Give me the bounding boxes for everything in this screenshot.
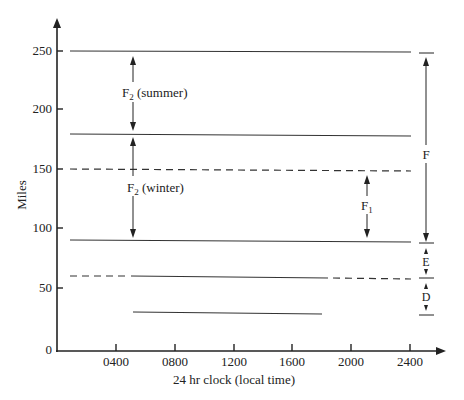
right-bracket (419, 53, 434, 315)
line-250mi (70, 51, 411, 52)
line-180mi (70, 134, 411, 136)
f-layer-label: F (422, 147, 429, 162)
e-layer-label: E (422, 255, 429, 269)
x-tick-1600: 1600 (279, 354, 305, 369)
x-tick-0800: 0800 (162, 354, 188, 369)
ionosphere-layers-diagram: 250 200 150 100 50 0 Miles 0400 0800 120… (0, 0, 464, 400)
y-tick-100: 100 (33, 220, 53, 235)
f1-label: F1 (361, 198, 373, 215)
x-tick-0400: 0400 (103, 354, 129, 369)
y-tick-labels: 250 200 150 100 50 0 (33, 43, 53, 357)
line-90mi (70, 240, 411, 242)
y-tick-250: 250 (33, 43, 53, 58)
x-tick-2000: 2000 (338, 354, 364, 369)
y-axis (53, 18, 63, 352)
y-tick-0: 0 (46, 342, 53, 357)
line-60mi-solid (131, 276, 328, 278)
y-tick-150: 150 (33, 161, 53, 176)
y-tick-200: 200 (33, 101, 53, 116)
y-axis-label: Miles (14, 180, 29, 210)
d-layer-label: D (422, 290, 431, 304)
x-axis-label: 24 hr clock (local time) (173, 372, 295, 387)
x-tick-2400: 2400 (397, 354, 423, 369)
x-tick-labels: 0400 0800 1200 1600 2000 2400 (103, 354, 423, 369)
line-60mi-dashed-right (333, 278, 411, 279)
line-30mi (133, 312, 322, 314)
y-tick-50: 50 (39, 280, 52, 295)
f2-winter-label: F2 (winter) (127, 180, 184, 197)
x-axis-arrow-icon (436, 347, 446, 355)
line-150mi-dashed (70, 169, 411, 171)
y-axis-arrow-icon (53, 18, 61, 28)
f2-summer-label: F2 (summer) (122, 85, 188, 102)
x-tick-1200: 1200 (221, 354, 247, 369)
